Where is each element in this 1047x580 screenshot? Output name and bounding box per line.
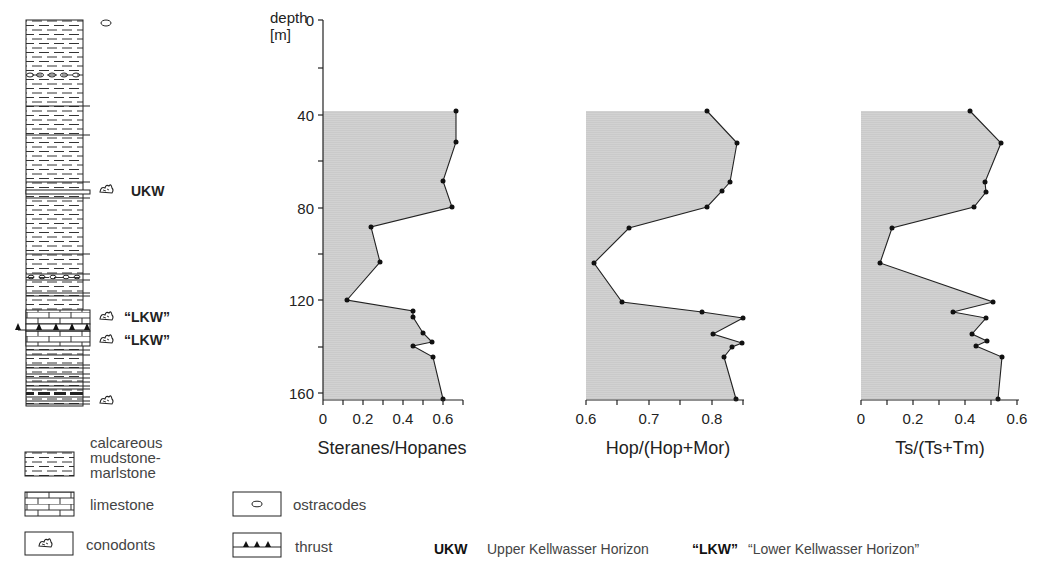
x-tick-labels: 0 0.2 0.4 0.6 <box>857 410 1028 427</box>
legend-limestone-label: limestone <box>90 497 154 512</box>
legend-lkw-text: “Lower Kellwasser Horizon” <box>748 541 919 557</box>
conodont-icon <box>100 312 113 320</box>
depth-tick-labels: 0 40 80 120 160 <box>289 12 314 402</box>
stratigraphic-column <box>15 20 90 406</box>
chart-ts-ts-tm: 0 0.2 0.4 0.6 Ts/(Ts+Tm) <box>857 109 1028 459</box>
ukw-column-label: UKW <box>131 183 165 199</box>
svg-text:0.2: 0.2 <box>353 410 374 427</box>
x-axis-title: Steranes/Hopanes <box>317 438 466 458</box>
conodont-icon <box>100 185 113 193</box>
conodonts-swatch <box>25 532 73 555</box>
svg-text:0: 0 <box>306 12 314 29</box>
svg-text:0.4: 0.4 <box>955 410 976 427</box>
depth-axis <box>318 20 323 400</box>
svg-text:80: 80 <box>297 200 314 217</box>
svg-text:0.6: 0.6 <box>576 410 597 427</box>
ostracodes-swatch <box>233 492 281 516</box>
legend-ukw-abbr: UKW <box>434 541 467 557</box>
svg-text:40: 40 <box>297 107 314 124</box>
limestone-bed <box>26 331 90 346</box>
svg-text:0: 0 <box>319 410 327 427</box>
depth-axis-label: depth <box>270 9 308 26</box>
legend-mudstone-label: calcareous mudstone- marlstone <box>90 435 163 480</box>
x-axis-title: Ts/(Ts+Tm) <box>895 438 985 458</box>
legend-ukw-text: Upper Kellwasser Horizon <box>487 541 649 557</box>
conodont-icon <box>100 396 113 404</box>
svg-text:0.6: 0.6 <box>433 410 454 427</box>
svg-text:0.6: 0.6 <box>1007 410 1028 427</box>
legend-thrust-label: thrust <box>295 539 333 554</box>
x-tick-labels: 0.6 0.7 0.8 <box>576 410 723 427</box>
limestone-swatch <box>25 492 74 516</box>
mudstone-swatch <box>25 452 74 476</box>
depth-axis-unit: [m] <box>270 26 291 43</box>
profile-area <box>323 111 456 399</box>
svg-text:160: 160 <box>289 385 314 402</box>
svg-text:0.8: 0.8 <box>702 410 723 427</box>
x-axis <box>586 400 744 405</box>
svg-text:0.7: 0.7 <box>639 410 660 427</box>
chart-steranes-hopanes: 0 40 80 120 160 0 0.2 0.4 0.6 Steranes/H… <box>289 12 467 458</box>
svg-text:0.4: 0.4 <box>393 410 414 427</box>
legend-lkw-abbr: “LKW” <box>692 541 738 557</box>
legend-ostracodes-label: ostracodes <box>293 497 366 512</box>
conodont-icon <box>100 335 113 343</box>
svg-text:0.2: 0.2 <box>903 410 924 427</box>
limestone-bed <box>26 310 90 324</box>
lkw-column-label-lower: “LKW” <box>124 332 170 348</box>
column-markers: UKW “LKW” “LKW” <box>100 20 170 404</box>
svg-text:120: 120 <box>289 292 314 309</box>
x-tick-labels: 0 0.2 0.4 0.6 <box>319 410 454 427</box>
legend-conodonts-label: conodonts <box>86 537 155 552</box>
lkw-column-label-upper: “LKW” <box>124 309 170 325</box>
svg-text:0: 0 <box>857 410 865 427</box>
ostracode-icon <box>101 20 111 26</box>
chart-hop-hop-mor: 0.6 0.7 0.8 Hop/(Hop+Mor) <box>576 109 746 459</box>
profile-area <box>861 111 1002 399</box>
x-axis-title: Hop/(Hop+Mor) <box>606 438 731 458</box>
figure: UKW “LKW” “LKW” depth [m] <box>0 0 1047 580</box>
profile-area <box>586 111 743 399</box>
x-axis <box>861 400 1019 405</box>
